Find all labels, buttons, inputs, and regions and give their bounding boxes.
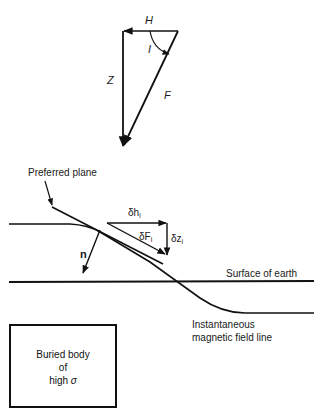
label-h: H [145, 14, 153, 26]
label-dF-sub: i [151, 236, 153, 243]
label-field-line-2: magnetic field line [192, 332, 272, 344]
buried-body-line2: of [11, 361, 115, 374]
surface-of-earth-line [9, 281, 314, 282]
buried-body-box: Buried body of high σ [9, 324, 117, 408]
label-dz: δzi [171, 233, 183, 248]
label-dz-main: δz [171, 233, 182, 244]
label-normal-n: n [80, 248, 87, 260]
label-surface-of-earth: Surface of earth [226, 268, 297, 280]
label-dF-main: δF [139, 231, 151, 242]
buried-body-line3: high σ [11, 374, 115, 387]
label-dh: δhi [128, 207, 141, 222]
label-f: F [164, 89, 171, 101]
sigma-symbol: σ [71, 375, 77, 386]
buried-body-line3-prefix: high [49, 375, 71, 386]
label-field-line-1: Instantaneous [192, 319, 255, 331]
label-dF: δFi [139, 231, 152, 246]
label-i: I [148, 43, 151, 55]
label-preferred-plane: Preferred plane [28, 167, 97, 179]
buried-body-line1: Buried body [11, 348, 115, 361]
label-z: Z [107, 74, 114, 86]
preferred-plane-leader [45, 181, 52, 205]
buried-body-text: Buried body of high σ [11, 348, 115, 387]
label-dh-sub: i [139, 212, 141, 219]
inclination-arc [150, 31, 169, 54]
label-dh-main: δh [128, 207, 139, 218]
label-dz-sub: i [182, 238, 184, 245]
